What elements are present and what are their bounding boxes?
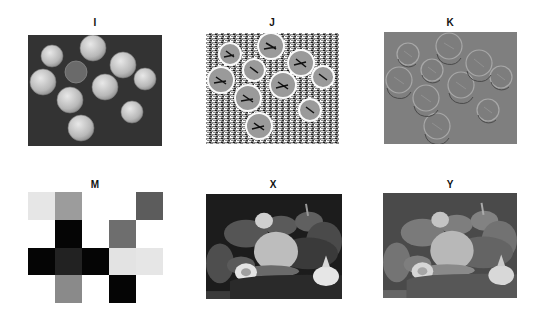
matrix-cell	[28, 275, 55, 303]
matrix-cell	[55, 192, 82, 220]
panel-title-x: X	[253, 179, 293, 191]
matrix-cell	[55, 275, 82, 303]
matrix-cell	[109, 248, 136, 276]
matrix-cell	[55, 248, 82, 276]
matrix-cell	[136, 275, 163, 303]
matrix-cell	[136, 220, 163, 248]
image-y-peppers	[383, 193, 517, 298]
matrix-cell	[28, 192, 55, 220]
matrix-cell	[109, 275, 136, 303]
matrix-cell	[136, 248, 163, 276]
matrix-cell	[82, 220, 109, 248]
matrix-cell	[28, 248, 55, 276]
image-j-edge-coins	[206, 33, 339, 144]
image-i-coins	[28, 35, 162, 146]
panel-title-j: J	[252, 17, 292, 29]
matrix-cell	[55, 220, 82, 248]
matrix-cell	[82, 248, 109, 276]
image-x-peppers	[206, 194, 342, 299]
matrix-cell	[82, 192, 109, 220]
matrix-cell	[136, 192, 163, 220]
panel-title-y: Y	[430, 179, 470, 191]
matrix-cell	[28, 220, 55, 248]
panel-title-i: I	[75, 17, 115, 29]
panel-title-m: M	[75, 179, 115, 191]
matrix-m-grid	[28, 192, 163, 303]
matrix-cell	[109, 220, 136, 248]
image-k-embossed-coins	[384, 32, 517, 144]
panel-title-k: K	[430, 17, 470, 29]
matrix-cell	[109, 192, 136, 220]
matrix-cell	[82, 275, 109, 303]
